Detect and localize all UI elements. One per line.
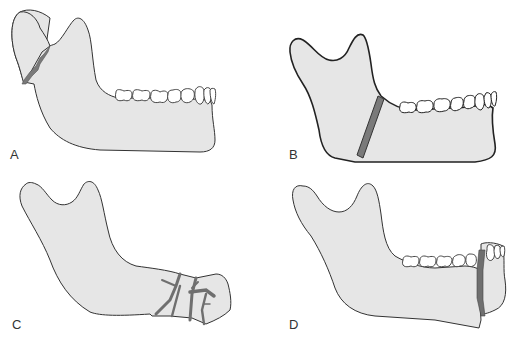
panel-b: B (255, 0, 511, 170)
panel-d: D (255, 170, 511, 341)
panel-c: C (0, 170, 255, 341)
panel-label-d: D (289, 317, 298, 332)
teeth-b (400, 92, 497, 113)
panel-label-c: C (12, 317, 21, 332)
mandible-illustration-a (0, 0, 255, 170)
mandible-illustration-d (255, 170, 511, 341)
mandible-illustration-c (0, 170, 255, 341)
mandible-body (20, 182, 231, 324)
panel-label-a: A (10, 147, 19, 162)
panel-label-b: B (289, 147, 298, 162)
panel-a: A (0, 0, 255, 170)
mandible-illustration-b (255, 0, 511, 170)
mandible-body (292, 184, 481, 328)
